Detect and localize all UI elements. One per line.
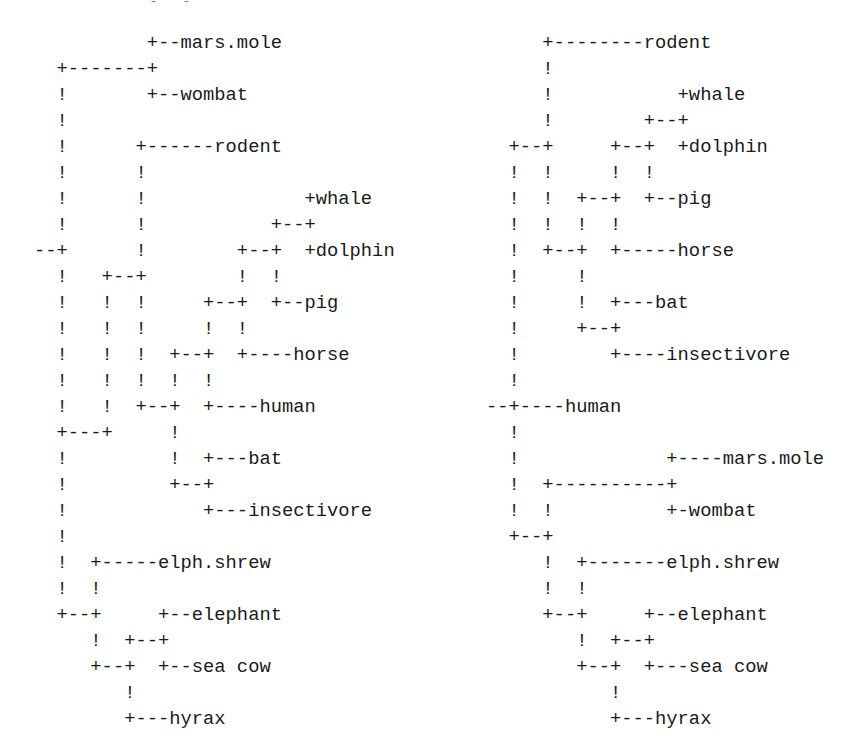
tree-row: ! [486, 680, 824, 706]
tree-row: ! ! [486, 264, 824, 290]
tree-row: ! ! [34, 160, 395, 186]
tree-row: +--+ +--elephant [34, 602, 395, 628]
tree-row: ! [486, 56, 824, 82]
glyph-fragment [183, 1, 190, 2]
tree-row: ! +--+ [486, 628, 824, 654]
tree-row: ! [34, 680, 395, 706]
tree-row: +--mars.mole [34, 30, 395, 56]
tree-row: ! ! ! ! ! [34, 316, 395, 342]
phylogenetic-tree-left: +--mars.mole +-------+ ! +--wombat ! ! +… [34, 30, 395, 732]
tree-row: ! ! ! +--+ +--pig [34, 290, 395, 316]
tree-row: ! ! +---bat [34, 446, 395, 472]
tree-row: ! ! +-wombat [486, 498, 824, 524]
tree-row: ! ! ! ! [486, 160, 824, 186]
phylogenetic-tree-right: +--------rodent ! ! +whale ! +--+ +--+ +… [486, 30, 824, 732]
tree-row: ! +--+ +-----horse [486, 238, 824, 264]
tree-row: ! ! ! ! ! [34, 368, 395, 394]
tree-row: +-------+ [34, 56, 395, 82]
tree-row: ! ! [486, 576, 824, 602]
tree-row: ! ! ! +--+ +----horse [34, 342, 395, 368]
tree-row: ! +--+ [34, 628, 395, 654]
tree-row: ! +----insectivore [486, 342, 824, 368]
tree-row: +--+ [486, 524, 824, 550]
tree-row: ! +--+ [486, 108, 824, 134]
tree-row: ! +---insectivore [34, 498, 395, 524]
tree-row: ! ! ! ! [486, 212, 824, 238]
tree-row: ! +------rodent [34, 134, 395, 160]
tree-row: ! +--wombat [34, 82, 395, 108]
tree-row: ! ! +--+ +--pig [486, 186, 824, 212]
tree-row: +--+ +--elephant [486, 602, 824, 628]
tree-row: +---+ ! [34, 420, 395, 446]
tree-row: ! +----mars.mole [486, 446, 824, 472]
tree-row: ! ! +---bat [486, 290, 824, 316]
tree-row: ! +--+ ! ! [34, 264, 395, 290]
tree-row: ! [486, 368, 824, 394]
tree-row: ! [34, 524, 395, 550]
tree-row: +--------rodent [486, 30, 824, 56]
tree-row: +---hyrax [34, 706, 395, 732]
tree-row: ! ! +--+ [34, 212, 395, 238]
tree-row: --+ ! +--+ +dolphin [34, 238, 395, 264]
tree-row: ! ! +--+ +----human [34, 394, 395, 420]
tree-row: +--+ +---sea cow [486, 654, 824, 680]
tree-row: ! [34, 108, 395, 134]
tree-row: ! +-----elph.shrew [34, 550, 395, 576]
tree-row: ! +--+ [34, 472, 395, 498]
tree-row: ! +--+ [486, 316, 824, 342]
tree-row: --+----human [486, 394, 824, 420]
tree-row: ! +-------elph.shrew [486, 550, 824, 576]
tree-row: ! +----------+ [486, 472, 824, 498]
tree-row: ! ! [34, 576, 395, 602]
tree-row: +--+ +--sea cow [34, 654, 395, 680]
tree-row: ! +whale [486, 82, 824, 108]
cropped-caption-fragment [150, 0, 230, 2]
tree-row: ! [486, 420, 824, 446]
tree-row: +---hyrax [486, 706, 824, 732]
tree-row: ! ! +whale [34, 186, 395, 212]
glyph-fragment [150, 1, 157, 2]
tree-row: +--+ +--+ +dolphin [486, 134, 824, 160]
